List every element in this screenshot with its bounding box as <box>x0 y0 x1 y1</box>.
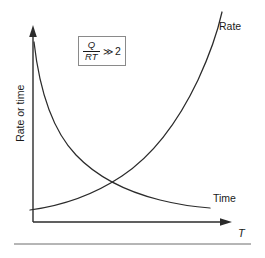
formula-value: 2 <box>115 45 121 57</box>
formula-denominator: RT <box>83 52 100 62</box>
y-axis-arrowhead-icon <box>29 25 37 37</box>
series-label-time: Time <box>213 193 236 204</box>
series-curve-rate <box>30 12 222 210</box>
x-axis-label: T <box>238 228 245 239</box>
formula-fraction: Q RT <box>83 40 100 62</box>
formula-numerator: Q <box>86 40 97 50</box>
series-curve-time <box>34 42 210 208</box>
condition-annotation-box: Q RT ≫ 2 <box>78 36 126 66</box>
figure-container: Q RT ≫ 2 Rate Time Rate or time T <box>0 0 265 258</box>
y-axis-label: Rate or time <box>15 75 26 151</box>
much-greater-than-icon: ≫ <box>103 46 113 57</box>
chart-plot-area <box>0 0 265 258</box>
x-axis-arrowhead-icon <box>220 218 232 226</box>
series-label-rate: Rate <box>219 21 241 32</box>
